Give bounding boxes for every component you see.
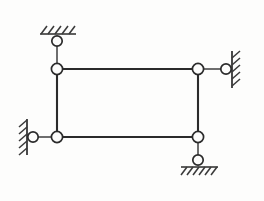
frame-members bbox=[57, 69, 198, 137]
joint-top-left bbox=[51, 63, 62, 74]
support-top-hatching bbox=[41, 26, 75, 34]
support-top-pin-icon bbox=[52, 36, 62, 46]
structural-frame-diagram bbox=[0, 0, 264, 201]
support-bottom-hatching bbox=[181, 167, 217, 175]
joint-bottom-right bbox=[192, 131, 203, 142]
support-left-hatching bbox=[19, 120, 27, 155]
support-right-pin-icon bbox=[221, 64, 231, 74]
support-right-hatching bbox=[232, 51, 240, 86]
joint-bottom-left bbox=[51, 131, 62, 142]
frame-joints bbox=[51, 63, 203, 142]
support-bottom bbox=[181, 155, 218, 175]
support-right bbox=[221, 51, 240, 88]
joint-top-right bbox=[192, 63, 203, 74]
frame-canvas bbox=[0, 0, 264, 201]
support-top bbox=[40, 26, 76, 46]
support-left bbox=[19, 119, 38, 155]
support-bottom-pin-icon bbox=[193, 155, 203, 165]
support-left-pin-icon bbox=[28, 132, 38, 142]
